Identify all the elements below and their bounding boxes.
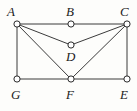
edge-a-f xyxy=(17,24,71,79)
vertex-label-b: B xyxy=(66,5,74,18)
graph-diagram: ABCDGFE xyxy=(0,0,137,111)
vertex-node-c xyxy=(124,21,130,27)
vertex-label-d: D xyxy=(66,50,75,63)
vertex-node-a xyxy=(14,21,20,27)
vertex-node-b xyxy=(68,21,74,27)
vertex-label-g: G xyxy=(11,88,20,101)
vertex-label-f: F xyxy=(66,88,74,101)
vertex-node-e xyxy=(124,76,130,82)
vertex-node-g xyxy=(14,76,20,82)
vertex-node-f xyxy=(68,76,74,82)
vertex-node-d xyxy=(68,42,74,48)
edge-c-f xyxy=(71,24,127,79)
vertex-label-a: A xyxy=(7,5,15,18)
edge-a-d xyxy=(17,24,71,45)
vertex-label-e: E xyxy=(120,88,128,101)
vertex-label-c: C xyxy=(120,5,129,18)
edge-c-d xyxy=(71,24,127,45)
